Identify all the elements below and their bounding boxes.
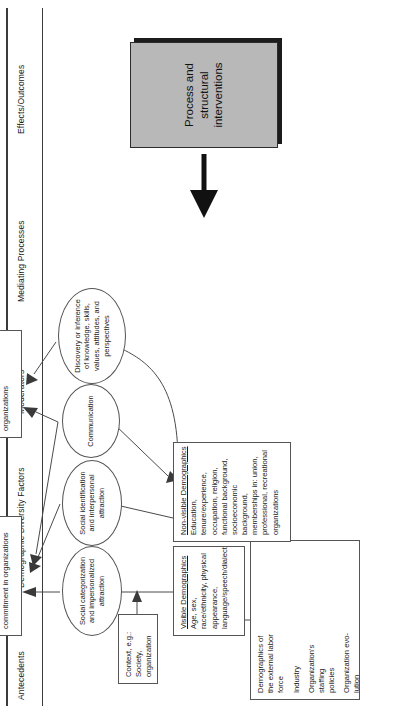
arrowhead-context bbox=[132, 590, 142, 602]
nonvisible-demographics-heading: Non-visible Demographics bbox=[179, 449, 189, 535]
context-moderator-box: Context, e.g.: Society, organization bbox=[118, 614, 158, 684]
visible-demographics-body: Age, sex, race/ethnicity, physical appea… bbox=[189, 553, 230, 629]
process-label-social-categorization: Social categorization and impersonalized… bbox=[78, 554, 107, 628]
link-communication-to-task bbox=[36, 412, 58, 422]
arrowhead-task-2 bbox=[26, 373, 38, 385]
task-outcomes-body: creativity, innovation and performance o… bbox=[0, 337, 11, 431]
column-header-antecedents: Antecedents bbox=[16, 651, 26, 700]
link-identification-to-social bbox=[36, 504, 60, 562]
link-discovery-to-task bbox=[34, 342, 56, 374]
antecedent-line-10: Organization evo- bbox=[342, 547, 352, 693]
antecedent-line-8: policies bbox=[327, 547, 337, 693]
antecedent-line-1: the external labor bbox=[266, 547, 276, 693]
link-nonvisible-communication bbox=[112, 422, 168, 476]
arrowhead-intervention bbox=[190, 190, 218, 218]
antecedent-line-7: staffing bbox=[317, 547, 327, 693]
antecedents-box: Demographics of the external labor force… bbox=[250, 540, 360, 700]
antecedent-line-4: Industry bbox=[292, 547, 302, 693]
intervention-label: Process and structural interventions bbox=[182, 43, 225, 147]
social-outcomes-box: Social, e.g.: friendship and trust in dy… bbox=[0, 516, 22, 636]
column-header-mediating-processes: Mediating Processes bbox=[16, 220, 26, 302]
link-communication-to-social bbox=[36, 422, 58, 554]
process-ellipse-discovery: Discovery or inference of knowledge, ski… bbox=[58, 288, 126, 384]
diagram-rotor: Antecedents Demographic Diversity Factor… bbox=[0, 0, 407, 714]
process-label-communication: Communication bbox=[86, 395, 96, 446]
antecedent-line-2: force bbox=[276, 547, 286, 693]
nonvisible-demographics-body: Education, tenure/experience, occupation… bbox=[189, 449, 281, 535]
antecedent-line-0: Demographics of bbox=[256, 547, 266, 693]
nonvisible-demographics-box: Non-visible Demographics Education, tenu… bbox=[173, 442, 291, 542]
visible-demographics-heading: Visible Demographics bbox=[179, 553, 189, 629]
diagram-canvas: Antecedents Demographic Diversity Factor… bbox=[0, 0, 407, 714]
process-ellipse-communication: Communication bbox=[62, 384, 120, 458]
process-ellipse-social-categorization: Social categorization and impersonalized… bbox=[62, 546, 122, 636]
column-header-effects-outcomes: Effects/Outcomes bbox=[16, 65, 26, 134]
arrowhead-social-3 bbox=[30, 554, 42, 566]
task-outcomes-box: Task, e.g.: creativity, innovation and p… bbox=[0, 330, 22, 438]
arrowhead-social-2 bbox=[29, 562, 41, 573]
context-line-2: Society, organization bbox=[134, 636, 153, 677]
arrowhead-social-1 bbox=[22, 587, 36, 597]
process-label-social-identification: Social identification and interpersonal … bbox=[78, 468, 107, 538]
context-line-1: Context, e.g.: bbox=[124, 632, 133, 677]
antecedent-line-6: Organization's bbox=[307, 547, 317, 693]
social-outcomes-body: friendship and trust in dyads, cohesion … bbox=[0, 523, 11, 629]
antecedent-line-11: lution bbox=[352, 547, 362, 693]
intervention-box: Process and structural interventions bbox=[130, 42, 278, 148]
header-rule-bottom bbox=[42, 8, 43, 706]
process-label-discovery: Discovery or inference of knowledge, ski… bbox=[73, 296, 112, 376]
visible-demographics-box: Visible Demographics Age, sex, race/ethn… bbox=[173, 546, 245, 636]
process-ellipse-social-identification: Social identification and interpersonal … bbox=[62, 460, 122, 546]
link-nonvisible-to-discovery bbox=[120, 348, 178, 462]
